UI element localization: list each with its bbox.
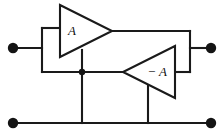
circuit-diagram-root: A − A	[0, 0, 224, 135]
amplifier-a-label: A	[67, 23, 76, 38]
circuit-schematic-canvas: A − A	[0, 0, 224, 135]
amplifier-a[interactable]: A	[60, 5, 112, 57]
wire-group	[13, 28, 211, 123]
ground-terminal-right[interactable]	[206, 118, 216, 128]
amplifier-minus-a-label: − A	[147, 64, 167, 79]
ground-terminal-left[interactable]	[8, 118, 18, 128]
terminal-group	[8, 43, 216, 128]
input-terminal-left[interactable]	[8, 43, 18, 53]
junction-node-mid-left	[79, 69, 85, 75]
output-terminal-right[interactable]	[206, 43, 216, 53]
